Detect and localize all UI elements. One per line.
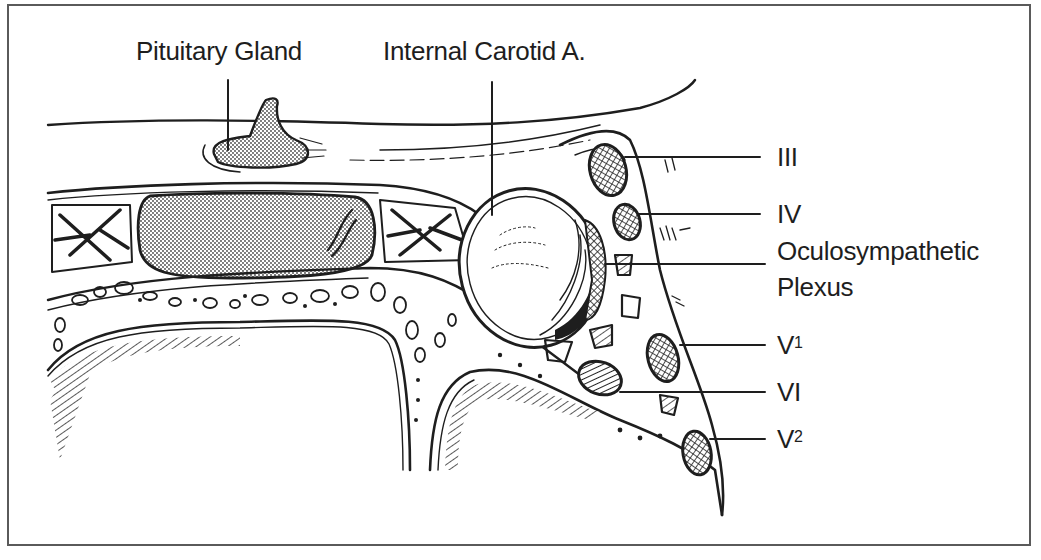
sphenoid-sinus: [138, 193, 375, 278]
nerve-v1: [642, 331, 683, 385]
label-internal-carotid: Internal Carotid A.: [383, 36, 585, 66]
label-nerve-iii: III: [777, 142, 798, 172]
label-pituitary-gland: Pituitary Gland: [136, 36, 302, 66]
anatomy-illustration: [0, 0, 1041, 560]
nerve-iv: [610, 201, 644, 243]
nerve-v2: [679, 429, 714, 477]
label-nerve-iv: IV: [777, 199, 801, 229]
label-nerve-v2: V2: [777, 424, 803, 454]
label-nerve-vi: VI: [777, 377, 801, 407]
label-nerve-v1: V1: [777, 330, 803, 360]
label-oculosympathetic: Oculosympathetic: [777, 236, 979, 266]
dura-line: [48, 80, 695, 125]
label-v1-sup: 1: [794, 334, 803, 351]
label-v2-base: V: [777, 424, 794, 454]
label-v2-sup: 2: [794, 428, 803, 445]
nerve-vi: [574, 355, 626, 400]
label-plexus: Plexus: [777, 272, 853, 302]
label-v1-base: V: [777, 330, 794, 360]
